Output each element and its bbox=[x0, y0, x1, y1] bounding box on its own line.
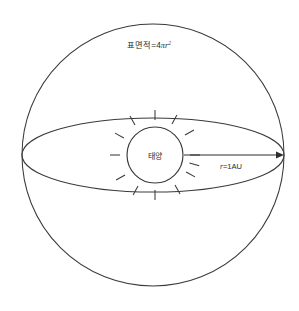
surface-area-prefix-label: 표면적 bbox=[127, 40, 151, 50]
sun-label: 태양 bbox=[148, 152, 163, 161]
surface-area-equals-label: =4 bbox=[151, 41, 161, 50]
radius-value: =1AU bbox=[223, 162, 242, 171]
surface-area-exponent: 2 bbox=[168, 40, 171, 46]
surface-area-formula: 표면적=4πr2 bbox=[127, 40, 171, 50]
sphere-diagram: 태양 r=1AU 표면적=4πr2 bbox=[0, 0, 299, 311]
diagram-canvas: 태양 r=1AU 표면적=4πr2 bbox=[0, 0, 299, 311]
radius-label: r=1AU bbox=[220, 162, 242, 171]
